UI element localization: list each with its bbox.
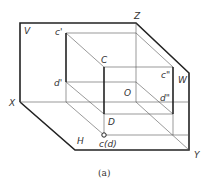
point-d-label: D (108, 117, 115, 127)
plane-h-label: H (77, 136, 84, 146)
axis-z-label: Z (133, 11, 141, 21)
origin-o-label: O (124, 88, 131, 98)
axis-x-label: X (8, 98, 16, 108)
point-c-double-prime-label: c" (161, 70, 170, 80)
point-c-prime-label: c' (55, 27, 62, 37)
plane-v-label: V (24, 26, 31, 36)
projection-diagram: V c' Z C c" W d' O d" X D H c(d) Y (a) (0, 0, 209, 192)
plane-w-label: W (178, 75, 188, 85)
point-c-label: C (101, 55, 108, 65)
figure-caption: (a) (98, 168, 110, 178)
point-cd-label: c(d) (99, 139, 117, 149)
point-d-prime-label: d' (54, 78, 62, 88)
axis-y-label: Y (194, 150, 201, 160)
cd-point-marker (102, 133, 106, 137)
point-d-double-prime-label: d" (160, 93, 170, 103)
